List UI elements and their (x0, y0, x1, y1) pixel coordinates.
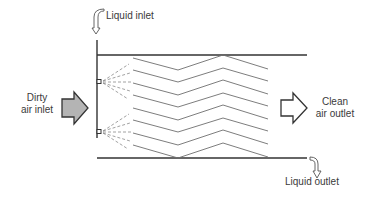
spray-cone-lower (103, 114, 131, 149)
liquid-inlet-arrow-icon (92, 9, 104, 34)
liquid-outlet-arrow-icon (310, 157, 321, 178)
clean-air-outlet-arrow-icon (281, 93, 307, 123)
liquid-outlet-label: Liquid outlet (285, 176, 339, 188)
dirty-air-inlet-label: Dirty air inlet (14, 92, 60, 116)
clean-air-label-line2: air outlet (310, 108, 360, 120)
spray-nozzle-upper (97, 80, 101, 84)
clean-air-outlet-label: Clean air outlet (310, 96, 360, 120)
spray-nozzle-lower (97, 130, 101, 134)
clean-air-label-line1: Clean (310, 96, 360, 108)
dirty-air-label-line2: air inlet (14, 104, 60, 116)
dirty-air-inlet-arrow-icon (62, 92, 88, 124)
spray-cone-upper (103, 64, 131, 99)
dirty-air-label-line1: Dirty (14, 92, 60, 104)
chevron-baffles (133, 55, 268, 158)
liquid-inlet-label: Liquid inlet (106, 10, 154, 22)
